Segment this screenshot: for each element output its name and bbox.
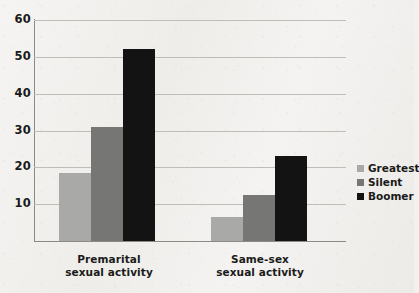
gridline-50 xyxy=(34,57,346,58)
legend-item-greatest: Greatest xyxy=(357,162,419,175)
y-tick-label-10: 10 xyxy=(3,198,31,210)
plot-area xyxy=(34,20,346,241)
bar-same-sex-silent xyxy=(243,195,275,241)
category-label-same-sex-line2: sexual activity xyxy=(195,266,325,279)
legend-swatch-greatest-icon xyxy=(357,165,364,172)
y-tick-label-30: 30 xyxy=(3,125,31,137)
gridline-40 xyxy=(34,94,346,95)
bar-same-sex-greatest xyxy=(211,217,243,241)
legend-item-silent: Silent xyxy=(357,176,419,189)
legend-label-boomer: Boomer xyxy=(368,191,414,202)
y-tick-label-40: 40 xyxy=(3,88,31,100)
category-label-premarital-line2: sexual activity xyxy=(44,266,174,279)
chart-legend: Greatest Silent Boomer xyxy=(357,162,419,204)
bar-same-sex-boomer xyxy=(275,156,307,241)
y-axis-tick-labels: 102030405060 xyxy=(0,0,31,293)
category-label-same-sex: Same-sex sexual activity xyxy=(195,253,325,278)
legend-swatch-silent-icon xyxy=(357,179,364,186)
y-tick-label-60: 60 xyxy=(3,14,31,26)
x-axis-line xyxy=(34,241,346,242)
category-label-premarital-line1: Premarital xyxy=(44,253,174,266)
y-tick-label-20: 20 xyxy=(3,161,31,173)
gridline-60 xyxy=(34,20,346,21)
y-tick-label-50: 50 xyxy=(3,51,31,63)
gridline-30 xyxy=(34,131,346,132)
legend-item-boomer: Boomer xyxy=(357,190,419,203)
legend-swatch-boomer-icon xyxy=(357,193,364,200)
bar-premarital-silent xyxy=(91,127,123,241)
bar-premarital-boomer xyxy=(123,49,155,241)
legend-label-silent: Silent xyxy=(368,177,402,188)
legend-label-greatest: Greatest xyxy=(368,163,419,174)
category-label-premarital: Premarital sexual activity xyxy=(44,253,174,278)
bar-premarital-greatest xyxy=(59,173,91,241)
category-label-same-sex-line1: Same-sex xyxy=(195,253,325,266)
